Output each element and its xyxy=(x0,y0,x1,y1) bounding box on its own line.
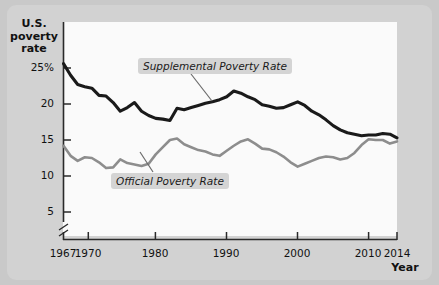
plot-background xyxy=(63,22,397,236)
chart-figure: U.S. poverty rate Year 25% 20 15 10 5 19… xyxy=(0,0,439,285)
official-series-label: Official Poverty Rate xyxy=(111,173,229,189)
supplemental-series-label: Supplemental Poverty Rate xyxy=(138,58,292,74)
plot-canvas xyxy=(0,0,439,285)
